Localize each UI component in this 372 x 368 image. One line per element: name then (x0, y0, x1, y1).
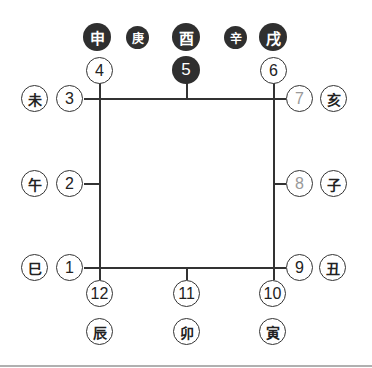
node-3: 3 (56, 85, 83, 112)
branch-chen: 辰 (86, 318, 113, 345)
node-9: 9 (286, 254, 313, 281)
node-2: 2 (56, 170, 83, 197)
branch-wei: 未 (21, 85, 48, 112)
stem-you: 酉 (172, 23, 200, 51)
branch-mao: 卯 (173, 318, 200, 345)
right-line (273, 83, 275, 280)
node-6: 6 (260, 57, 287, 84)
tick-11 (186, 267, 188, 280)
branch-chou: 丑 (319, 254, 346, 281)
tick-8 (273, 183, 286, 185)
node-11: 11 (173, 280, 200, 307)
bottom-line (84, 267, 286, 269)
node-12: 12 (86, 280, 113, 307)
stem-geng: 庚 (126, 26, 149, 49)
left-line (99, 83, 101, 280)
branch-si: 巳 (21, 254, 48, 281)
node-5: 5 (172, 56, 200, 84)
top-line (84, 98, 286, 100)
node-1: 1 (56, 254, 83, 281)
node-8: 8 (286, 170, 313, 197)
branch-zi: 子 (320, 170, 347, 197)
node-7: 7 (286, 85, 313, 112)
branch-yin: 寅 (259, 318, 286, 345)
branch-wu: 午 (21, 170, 48, 197)
bottom-separator (0, 365, 372, 367)
stem-xu: 戌 (259, 23, 287, 51)
tick-5 (186, 83, 188, 98)
branch-hai: 亥 (320, 85, 347, 112)
node-10: 10 (259, 280, 286, 307)
node-4: 4 (86, 57, 113, 84)
tick-2 (84, 183, 99, 185)
stem-shen: 申 (83, 23, 111, 51)
stem-xin: 辛 (224, 26, 247, 49)
